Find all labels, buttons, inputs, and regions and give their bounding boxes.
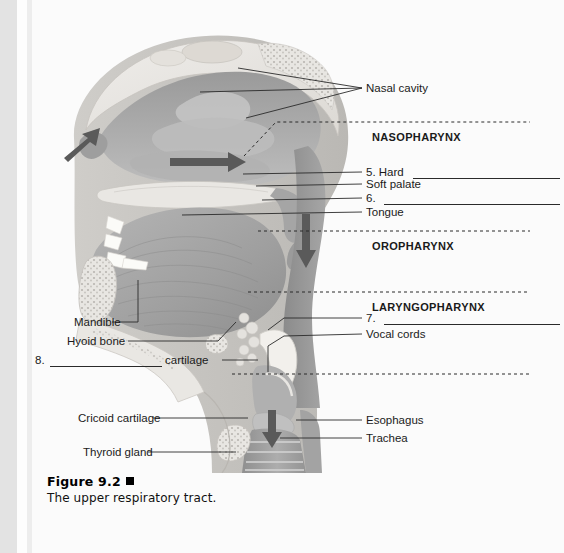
blank-line-item-8[interactable] (50, 366, 162, 367)
label-item-7: 7. (366, 312, 376, 324)
figure-square-marker (126, 477, 134, 485)
textbook-page: Nasal cavity 5. Hard Soft palate 6. Tong… (0, 0, 564, 553)
label-item-8-suffix: cartilage (165, 354, 208, 366)
label-vocal-cords: Vocal cords (366, 328, 425, 340)
figure-number-text: Figure 9.2 (47, 474, 121, 489)
label-trachea: Trachea (366, 432, 408, 444)
figure-caption: Figure 9.2 The upper respiratory tract. (47, 474, 307, 505)
region-label-oropharynx: OROPHARYNX (372, 240, 454, 252)
blank-line-item-6[interactable] (384, 204, 560, 205)
region-label-laryngopharynx: LARYNGOPHARYNX (372, 301, 485, 313)
blank-line-item-7[interactable] (384, 324, 560, 325)
annotation-overlay (0, 0, 564, 553)
figure-number: Figure 9.2 (47, 474, 307, 489)
label-hyoid-bone: Hyoid bone (67, 335, 125, 347)
label-item-5-hard: 5. Hard (366, 166, 404, 178)
label-nasal-cavity: Nasal cavity (366, 82, 428, 94)
figure-caption-text: The upper respiratory tract. (47, 491, 307, 505)
blank-line-item-5[interactable] (413, 178, 560, 179)
region-label-nasopharynx: NASOPHARYNX (372, 131, 461, 143)
label-mandible: Mandible (74, 316, 121, 328)
label-item-6: 6. (366, 192, 376, 204)
label-cricoid-cartilage: Cricoid cartilage (78, 412, 160, 424)
label-item-8: 8. (35, 354, 45, 366)
label-thyroid-gland: Thyroid gland (83, 446, 153, 458)
label-soft-palate: Soft palate (366, 178, 421, 190)
label-tongue: Tongue (366, 206, 404, 218)
label-esophagus: Esophagus (366, 414, 424, 426)
